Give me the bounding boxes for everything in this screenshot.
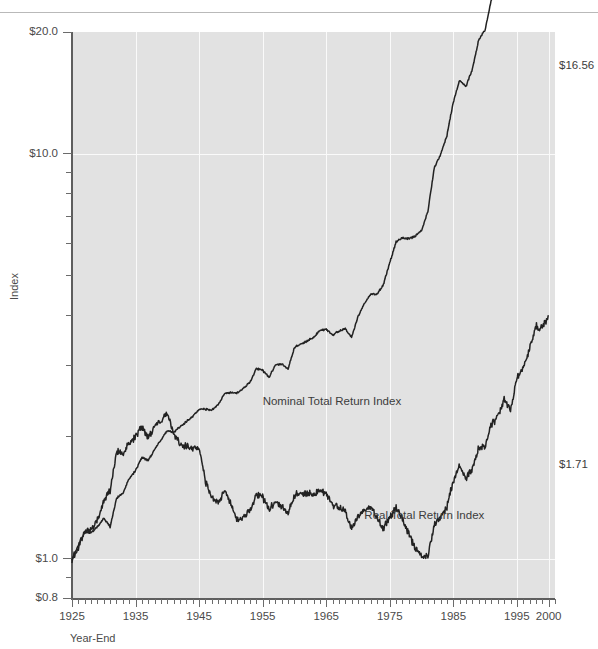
x-tick-minor [174,599,175,604]
x-tick-minor [320,599,321,604]
x-tick-minor [148,599,149,604]
y-tick-minor [66,315,72,316]
x-tick-minor [85,599,86,604]
x-tick-minor [371,599,372,604]
x-tick-label: 1945 [175,610,223,622]
x-tick-minor [250,599,251,604]
x-tick-minor [269,599,270,604]
x-tick-minor [447,599,448,604]
y-tick-major [63,598,72,599]
x-tick-major [517,599,518,607]
y-tick-major [63,558,72,559]
x-tick-major [549,599,550,607]
x-tick-minor [511,599,512,604]
y-tick-minor [66,243,72,244]
x-tick-minor [479,599,480,604]
x-tick-label: 1965 [302,610,350,622]
x-tick-minor [225,599,226,604]
horizontal-gridline [72,154,555,155]
nominal-series-label: Nominal Total Return Index [263,395,402,407]
x-tick-minor [193,599,194,604]
x-tick-minor [161,599,162,604]
vertical-gridline [517,32,518,598]
x-tick-minor [396,599,397,604]
x-tick-minor [212,599,213,604]
x-tick-minor [409,599,410,604]
x-tick-minor [237,599,238,604]
x-tick-minor [428,599,429,604]
y-axis-line [71,32,73,599]
y-tick-label: $20.0 [0,26,58,38]
x-tick-label: 1985 [429,610,477,622]
real-end-value-label: $1.71 [559,458,588,470]
y-tick-label: $10.0 [0,148,58,160]
real-series-label: Real Total Return Index [364,509,484,521]
y-tick-minor [66,365,72,366]
x-tick-minor [383,599,384,604]
x-tick-minor [97,599,98,604]
y-tick-minor [66,436,72,437]
x-tick-minor [377,599,378,604]
x-tick-label: 1925 [48,610,96,622]
x-tick-minor [129,599,130,604]
horizontal-gridline [72,559,555,560]
x-tick-minor [282,599,283,604]
vertical-gridline [199,32,200,598]
x-tick-minor [155,599,156,604]
x-tick-minor [116,599,117,604]
y-tick-major [63,153,72,154]
x-tick-minor [256,599,257,604]
x-tick-minor [307,599,308,604]
x-tick-minor [110,599,111,604]
x-tick-label: 1955 [239,610,287,622]
vertical-gridline [263,32,264,598]
x-tick-label: 1975 [366,610,414,622]
vertical-gridline [549,32,550,598]
header-rule [0,12,598,13]
x-tick-minor [244,599,245,604]
y-tick-minor [66,193,72,194]
y-tick-minor [66,275,72,276]
y-tick-minor [66,216,72,217]
x-tick-minor [441,599,442,604]
x-tick-minor [231,599,232,604]
x-tick-major [199,599,200,607]
x-tick-minor [167,599,168,604]
x-tick-minor [536,599,537,604]
x-tick-minor [434,599,435,604]
x-tick-major [326,599,327,607]
x-tick-minor [358,599,359,604]
x-tick-minor [460,599,461,604]
x-tick-minor [205,599,206,604]
x-tick-minor [472,599,473,604]
y-tick-minor [66,577,72,578]
x-tick-minor [180,599,181,604]
x-tick-major [453,599,454,607]
x-axis-title: Year-End [70,632,115,644]
x-tick-label: 1935 [112,610,160,622]
x-tick-minor [345,599,346,604]
nominal-end-value-label: $16.56 [559,59,594,71]
x-tick-minor [301,599,302,604]
y-axis-title: Index [8,273,20,300]
x-tick-minor [530,599,531,604]
x-tick-major [136,599,137,607]
x-tick-minor [485,599,486,604]
x-tick-major [390,599,391,607]
header-ghost-text [4,0,144,7]
x-tick-minor [314,599,315,604]
x-tick-minor [415,599,416,604]
x-tick-major [263,599,264,607]
x-tick-minor [91,599,92,604]
x-tick-minor [78,599,79,604]
x-tick-minor [466,599,467,604]
x-tick-minor [104,599,105,604]
x-tick-minor [402,599,403,604]
x-tick-minor [186,599,187,604]
x-tick-minor [542,599,543,604]
x-tick-minor [491,599,492,604]
y-tick-minor [66,172,72,173]
x-tick-minor [523,599,524,604]
y-tick-major [63,32,72,33]
x-tick-minor [339,599,340,604]
